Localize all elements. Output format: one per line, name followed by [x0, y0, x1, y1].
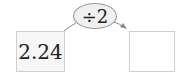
operator-bubble: ÷2	[73, 3, 117, 29]
operator-label: ÷2	[82, 6, 109, 27]
answer-box[interactable]	[129, 31, 175, 72]
input-box: 2.24	[16, 31, 65, 72]
arrowhead-icon	[120, 23, 127, 29]
input-value: 2.24	[18, 40, 63, 64]
